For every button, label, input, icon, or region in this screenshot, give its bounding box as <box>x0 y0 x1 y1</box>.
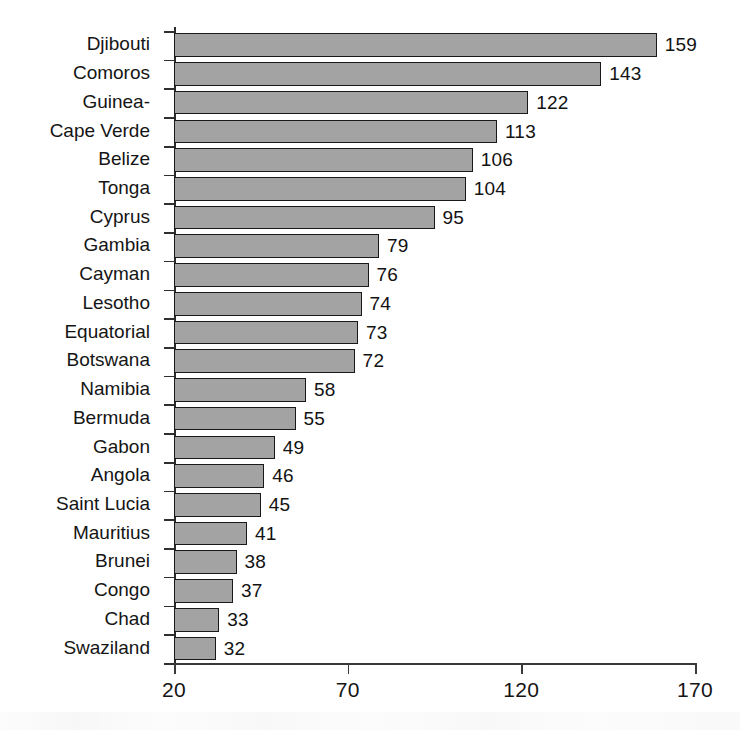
y-axis-tick <box>164 318 174 320</box>
x-axis-tick <box>348 663 350 674</box>
x-axis-tick-label: 70 <box>336 678 360 702</box>
bar <box>174 349 355 373</box>
y-axis-tick <box>164 347 174 349</box>
category-label: Gambia <box>0 235 162 257</box>
y-axis-tick <box>164 261 174 263</box>
bar-row: Cape Verde113 <box>174 117 695 146</box>
bar-row: Gabon49 <box>174 433 695 462</box>
y-axis-tick <box>164 203 174 205</box>
bar-value-label: 74 <box>370 292 392 314</box>
category-label: Cayman <box>0 263 162 285</box>
y-axis-tick <box>164 433 174 435</box>
bar-value-label: 41 <box>255 522 277 544</box>
bar <box>174 464 264 488</box>
y-axis-tick <box>164 606 174 608</box>
bar-value-label: 113 <box>505 120 536 142</box>
y-axis-tick <box>164 175 174 177</box>
category-label: Chad <box>0 608 162 630</box>
category-label: Belize <box>0 148 162 170</box>
bar <box>174 579 233 603</box>
y-axis-tick <box>164 60 174 62</box>
category-label: Mauritius <box>0 522 162 544</box>
bar <box>174 493 261 517</box>
y-axis-tick <box>164 548 174 550</box>
bar-row: Angola46 <box>174 462 695 491</box>
bar-row: Guinea-122 <box>174 88 695 117</box>
bar-row: Brunei38 <box>174 548 695 577</box>
category-label: Cape Verde <box>0 120 162 142</box>
bar-value-label: 38 <box>245 551 267 573</box>
x-axis-tick <box>521 663 523 674</box>
y-axis-tick <box>164 117 174 119</box>
bar-value-label: 159 <box>665 34 697 56</box>
bar <box>174 436 275 460</box>
bar-row: Cyprus95 <box>174 203 695 232</box>
bar-row: Swaziland32 <box>174 634 695 663</box>
category-label: Guinea- <box>0 91 162 113</box>
bar <box>174 91 528 115</box>
bar-value-label: 37 <box>241 580 263 602</box>
bar-row: Belize106 <box>174 146 695 175</box>
bar <box>174 292 362 316</box>
bar <box>174 33 657 57</box>
bar-row: Bermuda55 <box>174 404 695 433</box>
bar-value-label: 32 <box>224 637 246 659</box>
bar-row: Comoros143 <box>174 60 695 89</box>
bar <box>174 522 247 546</box>
y-axis-tick <box>164 577 174 579</box>
bar-value-label: 73 <box>366 321 388 343</box>
y-axis-tick <box>164 31 174 33</box>
category-label: Brunei <box>0 551 162 573</box>
category-label: Namibia <box>0 378 162 400</box>
bar-value-label: 33 <box>227 608 249 630</box>
bar-value-label: 106 <box>481 149 513 171</box>
bar-value-label: 55 <box>304 407 326 429</box>
category-label: Gabon <box>0 436 162 458</box>
bar <box>174 62 601 86</box>
y-axis-tick <box>164 519 174 521</box>
bar <box>174 234 379 258</box>
bar-value-label: 104 <box>474 178 506 200</box>
bar <box>174 206 435 230</box>
category-label: Cyprus <box>0 206 162 228</box>
scan-artifact <box>0 712 740 730</box>
category-label: Swaziland <box>0 637 162 659</box>
bar <box>174 148 473 172</box>
bar-value-label: 79 <box>387 235 409 257</box>
y-axis-tick <box>164 404 174 406</box>
bar-row: Gambia79 <box>174 232 695 261</box>
bar-row: Equatorial73 <box>174 318 695 347</box>
category-label: Tonga <box>0 177 162 199</box>
bar <box>174 550 237 574</box>
y-axis-tick <box>164 462 174 464</box>
bar <box>174 378 306 402</box>
category-label: Lesotho <box>0 292 162 314</box>
x-axis-tick-label: 170 <box>677 678 713 702</box>
category-label: Botswana <box>0 349 162 371</box>
y-axis-tick <box>164 146 174 148</box>
x-axis-tick-label: 20 <box>162 678 186 702</box>
bar-value-label: 49 <box>283 436 305 458</box>
bar-row: Saint Lucia45 <box>174 491 695 520</box>
bar <box>174 321 358 345</box>
bar <box>174 637 216 661</box>
bar-value-label: 122 <box>536 91 568 113</box>
x-axis-line <box>174 663 697 665</box>
bar <box>174 177 466 201</box>
bar-value-label: 76 <box>377 264 399 286</box>
category-label: Congo <box>0 579 162 601</box>
bar-row: Congo37 <box>174 577 695 606</box>
plot-area: Djibouti159Comoros143Guinea-122Cape Verd… <box>174 31 695 663</box>
bar-row: Cayman76 <box>174 261 695 290</box>
bar <box>174 263 369 287</box>
bar-value-label: 143 <box>609 63 641 85</box>
category-label: Comoros <box>0 62 162 84</box>
category-label: Djibouti <box>0 33 162 55</box>
bar-row: Djibouti159 <box>174 31 695 60</box>
category-label: Equatorial <box>0 321 162 343</box>
bar-chart: Djibouti159Comoros143Guinea-122Cape Verd… <box>0 0 740 730</box>
y-axis-tick <box>164 376 174 378</box>
bar-row: Botswana72 <box>174 347 695 376</box>
bar-row: Lesotho74 <box>174 290 695 319</box>
bar-value-label: 95 <box>443 206 465 228</box>
